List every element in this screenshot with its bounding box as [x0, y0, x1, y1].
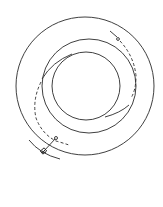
outer-ring	[16, 17, 154, 155]
start-segment	[110, 31, 117, 37]
ring-diagram	[0, 0, 163, 207]
outer-arc-lower-left	[29, 140, 60, 159]
dashed-path-left	[35, 82, 69, 145]
dashed-path-right	[120, 41, 136, 98]
inner-ring	[52, 52, 120, 120]
diagram-canvas	[0, 0, 163, 207]
start-marker-icon	[117, 38, 120, 41]
middle-ring	[42, 39, 136, 133]
